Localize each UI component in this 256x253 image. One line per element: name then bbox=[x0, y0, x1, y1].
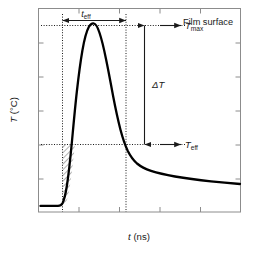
delta-t-label: ΔT bbox=[151, 79, 165, 90]
temperature-transient-chart: teff Tmax Teff ΔT Film surface t (ns) T … bbox=[0, 0, 256, 253]
x-axis-label: t (ns) bbox=[128, 231, 150, 242]
figure-panel: teff Tmax Teff ΔT Film surface t (ns) T … bbox=[0, 0, 256, 253]
y-axis-label: T (°C) bbox=[8, 97, 19, 123]
panel-label-film-surface: Film surface bbox=[183, 17, 233, 27]
